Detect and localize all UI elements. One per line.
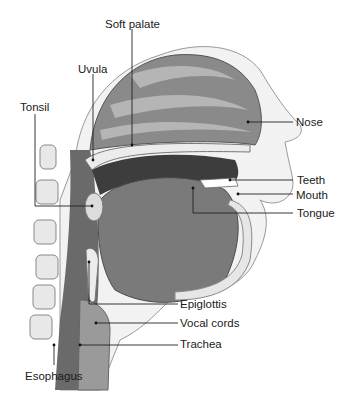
label-teeth: Teeth <box>297 174 325 187</box>
upper-teeth <box>200 178 238 188</box>
label-nose: Nose <box>296 116 323 129</box>
anatomy-diagram: Soft palate Uvula Tonsil Nose Teeth Mout… <box>0 0 356 399</box>
label-trachea: Trachea <box>180 338 222 351</box>
label-epiglottis: Epiglottis <box>180 298 227 311</box>
label-vocal-cords: Vocal cords <box>180 317 239 330</box>
label-esophagus: Esophagus <box>25 370 83 383</box>
label-mouth: Mouth <box>296 189 328 202</box>
vertebrae <box>30 145 58 339</box>
label-uvula: Uvula <box>78 63 107 76</box>
label-tongue: Tongue <box>297 207 335 220</box>
label-tonsil: Tonsil <box>20 101 49 114</box>
tonsil <box>85 193 103 221</box>
label-soft-palate: Soft palate <box>105 18 160 31</box>
